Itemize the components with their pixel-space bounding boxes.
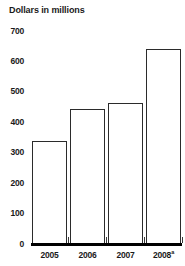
y-axis-tick-label: 600 (0, 57, 24, 66)
y-axis-tick-label: 0 (0, 240, 24, 249)
bar-chart: Dollars in millions 01002003004005006007… (0, 0, 185, 266)
x-axis-tick-mark (144, 237, 145, 243)
y-axis-tick-label: 700 (0, 27, 24, 36)
chart-title: Dollars in millions (9, 5, 85, 16)
x-axis-label-2006: 2006 (68, 250, 108, 260)
bar-2005 (32, 141, 67, 244)
y-axis-tick-label: 400 (0, 118, 24, 127)
plot-area (30, 27, 185, 244)
bar-2007 (108, 103, 143, 244)
x-axis-label-text: 2007 (116, 250, 134, 260)
footnote-marker: a (171, 249, 174, 255)
bar-2008 (146, 49, 181, 244)
x-axis-label-2005: 2005 (30, 250, 70, 260)
x-axis-tick-mark (68, 237, 69, 243)
x-axis-label-text: 2005 (40, 250, 58, 260)
y-axis-tick-label: 200 (0, 179, 24, 188)
y-axis-tick-label: 300 (0, 148, 24, 157)
y-axis-tick-label: 100 (0, 209, 24, 218)
x-axis-line (31, 243, 182, 246)
x-axis-label-2008: 2008a (144, 250, 184, 260)
x-axis-label-text: 2008 (153, 250, 171, 260)
x-axis-label-text: 2006 (78, 250, 96, 260)
bar-2006 (70, 109, 105, 244)
y-axis-tick-label: 500 (0, 87, 24, 96)
x-axis-tick-mark (106, 237, 107, 243)
x-axis-tick-mark (182, 237, 183, 243)
x-axis-label-2007: 2007 (106, 250, 146, 260)
